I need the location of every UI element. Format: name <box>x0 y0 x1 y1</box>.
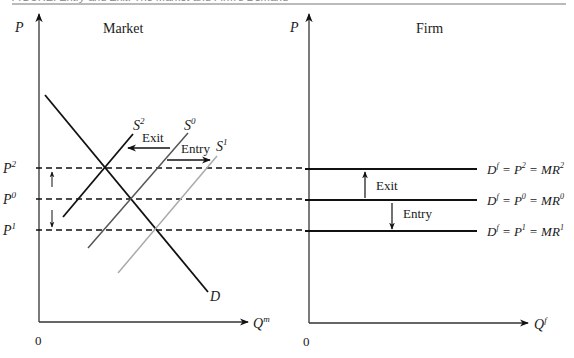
firm-demand-label-0: Df = P0 = MR0 <box>486 192 564 208</box>
market-title: Market <box>103 21 144 36</box>
supply-curve-s1 <box>118 156 217 273</box>
firm-title: Firm <box>416 21 443 36</box>
firm-origin-label: 0 <box>303 334 310 349</box>
supply-label-s1: S1 <box>216 137 228 154</box>
market-entry-label: Entry <box>181 141 210 156</box>
price-label-p1: P1 <box>2 221 16 238</box>
price-label-p2: P2 <box>2 159 17 176</box>
demand-label: D <box>209 289 220 304</box>
firm-y-axis-label: P <box>289 20 299 35</box>
firm-panel: Firm P 0 Qf Df = P2 = MR2 Df = P0 = MR0 … <box>289 14 564 349</box>
firm-demand-label-1: Df = P1 = MR1 <box>486 223 564 239</box>
entry-exit-diagram: FIGURE: Entry and Exit: The Market and F… <box>0 0 574 358</box>
market-origin-label: 0 <box>35 333 42 348</box>
firm-x-axis-label: Qf <box>534 315 548 332</box>
firm-exit-label: Exit <box>376 178 398 193</box>
firm-entry-label: Entry <box>403 206 432 221</box>
market-x-axis-label: Qm <box>253 314 270 331</box>
figure-caption: FIGURE: Entry and Exit: The Market and F… <box>12 0 289 3</box>
firm-demand-label-2: Df = P2 = MR2 <box>486 161 564 177</box>
market-y-axis-label: P <box>14 20 24 35</box>
market-panel: Market P 0 Qm P2 P0 P1 D S2 S0 S1 Exit E… <box>2 14 305 348</box>
supply-curve-s2 <box>63 134 133 217</box>
supply-label-s0: S0 <box>184 116 196 133</box>
price-label-p0: P0 <box>2 190 17 207</box>
market-exit-label: Exit <box>142 130 164 145</box>
